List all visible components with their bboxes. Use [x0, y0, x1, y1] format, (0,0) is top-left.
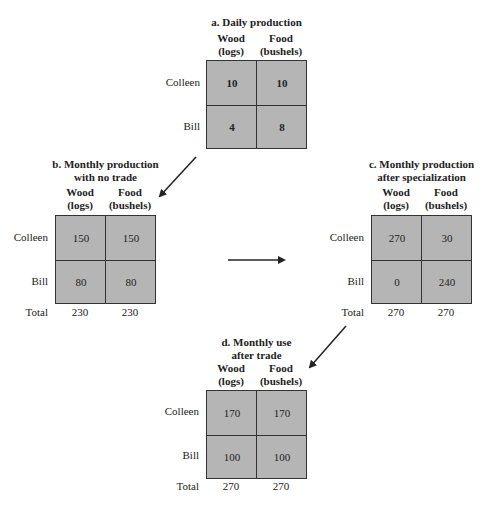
panel-b-food-header: Food(bushels) — [105, 186, 155, 212]
panel-b-bill-wood: 80 — [56, 260, 106, 304]
panel-c-row-bill: Bill — [304, 275, 364, 287]
food-label: Food — [256, 32, 306, 45]
panel-c-wood-header: Wood(logs) — [371, 186, 421, 212]
panel-c-title: c. Monthly productionafter specializatio… — [351, 158, 492, 184]
panel-d-total-food: 270 — [256, 480, 306, 492]
panel-b-row-bill: Bill — [0, 275, 48, 287]
panel-b-row-colleen: Colleen — [0, 231, 48, 243]
panel-d-title: d. Monthly useafter trade — [186, 336, 327, 362]
panel-a-colleen-wood: 10 — [207, 61, 257, 105]
food-unit: (bushels) — [256, 45, 306, 58]
panel-c-total-wood: 270 — [371, 306, 421, 318]
panel-d-row-colleen: Colleen — [139, 405, 199, 417]
panel-c-food-header: Food(bushels) — [421, 186, 471, 212]
panel-c-colleen-wood: 270 — [372, 216, 422, 260]
panel-b-total-wood: 230 — [55, 306, 105, 318]
panel-b-total-food: 230 — [105, 306, 155, 318]
panel-a-row-bill: Bill — [140, 120, 200, 132]
panel-a-row-colleen: Colleen — [140, 76, 200, 88]
wood-unit: (logs) — [206, 45, 256, 58]
wood-label: Wood — [206, 32, 256, 45]
panel-a-grid: 10 10 4 8 — [206, 60, 307, 149]
panel-c-row-total: Total — [304, 306, 364, 318]
panel-a-wood-header: Wood(logs) — [206, 32, 256, 58]
panel-b-grid: 150 150 80 80 — [55, 215, 156, 304]
panel-c-bill-wood: 0 — [372, 260, 422, 304]
panel-b-colleen-wood: 150 — [56, 216, 106, 260]
panel-c-colleen-food: 30 — [422, 216, 472, 260]
panel-c-bill-food: 240 — [422, 260, 472, 304]
panel-c-grid: 270 30 0 240 — [371, 215, 472, 304]
panel-a-bill-food: 8 — [257, 105, 307, 149]
panel-d-colleen-food: 170 — [257, 391, 307, 435]
panel-d-total-wood: 270 — [206, 480, 256, 492]
panel-b-colleen-food: 150 — [106, 216, 156, 260]
panel-a-bill-wood: 4 — [207, 105, 257, 149]
panel-a-food-header: Food(bushels) — [256, 32, 306, 58]
panel-d-bill-food: 100 — [257, 435, 307, 479]
panel-d-grid: 170 170 100 100 — [206, 390, 307, 479]
panel-b-title: b. Monthly productionwith no trade — [35, 158, 176, 184]
panel-d-row-bill: Bill — [139, 449, 199, 461]
panel-b-row-total: Total — [0, 306, 48, 318]
panel-d-bill-wood: 100 — [207, 435, 257, 479]
panel-a-title: a. Daily production — [206, 16, 307, 29]
panel-d-colleen-wood: 170 — [207, 391, 257, 435]
panel-a-colleen-food: 10 — [257, 61, 307, 105]
panel-c-row-colleen: Colleen — [304, 231, 364, 243]
panel-b-wood-header: Wood(logs) — [55, 186, 105, 212]
panel-b-bill-food: 80 — [106, 260, 156, 304]
panel-d-food-header: Food(bushels) — [256, 362, 306, 388]
panel-d-wood-header: Wood(logs) — [206, 362, 256, 388]
panel-d-row-total: Total — [139, 480, 199, 492]
panel-c-total-food: 270 — [421, 306, 471, 318]
